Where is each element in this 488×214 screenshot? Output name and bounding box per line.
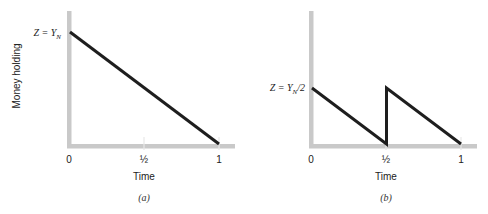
y-axis-title: Money holding (11, 43, 22, 108)
x-tick-label-half-b: ½ (382, 154, 391, 165)
y-annotation-a: Z = YN (33, 27, 61, 41)
caption-b: (b) (380, 192, 392, 204)
caption-a: (a) (138, 192, 150, 204)
x-tick-label-1-b: 1 (458, 154, 464, 165)
figure: Money holding Z = YN 0 ½ 1 Time (a) Z = … (0, 0, 488, 214)
money-holding-line-b (312, 88, 461, 144)
x-axis-b (309, 144, 477, 149)
x-tick-label-1-a: 1 (216, 154, 222, 165)
panel-a: Z = YN 0 ½ 1 Time (a) (33, 11, 235, 204)
x-tick-label-0-b: 0 (308, 154, 314, 165)
x-tick-label-half-a: ½ (140, 154, 149, 165)
money-holding-line-a (70, 32, 219, 144)
y-annotation-b: Z = YN/2 (270, 82, 305, 96)
y-axis-b (309, 11, 314, 148)
x-axis-a (67, 144, 235, 149)
x-axis-title-a: Time (133, 171, 155, 182)
x-tick-label-0-a: 0 (66, 154, 72, 165)
x-axis-title-b: Time (375, 171, 397, 182)
panel-b: Z = YN/2 0 ½ 1 Time (b) (270, 11, 477, 204)
